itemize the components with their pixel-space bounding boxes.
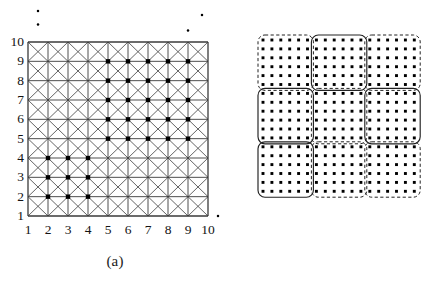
lattice-dot [270,163,273,166]
lattice-dot [377,110,380,113]
data-marker [146,136,150,140]
lattice-dot [386,119,389,122]
lattice-dot [279,110,282,113]
dot-lattice [262,39,416,193]
y-axis-tick-1: 1 [17,209,24,223]
lattice-dot [333,110,336,113]
x-axis-tick-5: 5 [98,223,118,237]
lattice-dot [288,119,291,122]
lattice-dot [262,163,265,166]
region-bottom-left [258,142,313,197]
lattice-dot [288,154,291,157]
lattice-dot [386,163,389,166]
lattice-dot [359,65,362,68]
outlier-marker [187,29,190,32]
lattice-dot [270,47,273,50]
lattice-dot [386,145,389,148]
lattice-dot [368,83,371,86]
lattice-dot [386,181,389,184]
y-axis-tick-5: 5 [17,132,24,146]
lattice-dot [270,65,273,68]
lattice-dot [297,39,300,42]
lattice-dot [368,65,371,68]
lattice-dot [413,181,416,184]
lattice-dot [377,181,380,184]
lattice-dot [351,56,354,59]
lattice-dot [324,190,327,193]
lattice-dot [359,39,362,42]
lattice-dot [351,154,354,157]
lattice-dot [306,92,309,95]
data-marker [186,59,190,63]
lattice-dot [413,163,416,166]
lattice-dot [315,110,318,113]
lattice-dot [288,181,291,184]
lattice-dot [297,56,300,59]
lattice-dot [395,101,398,104]
lattice-dot [306,128,309,131]
lattice-dot [262,65,265,68]
lattice-dot [351,39,354,42]
x-axis-tick-6: 6 [118,223,138,237]
lattice-dot [333,119,336,122]
lattice-dot [262,56,265,59]
lattice-dot [262,190,265,193]
lattice-dot [404,74,407,77]
lattice-dot [351,83,354,86]
y-axis-tick-7: 7 [17,93,24,107]
lattice-dot [324,47,327,50]
lattice-dot [395,181,398,184]
lattice-dot [324,128,327,131]
lattice-dot [297,65,300,68]
lattice-dot [262,145,265,148]
lattice-dot [306,136,309,139]
lattice-dot [351,119,354,122]
lattice-dot [368,163,371,166]
lattice-dot [315,83,318,86]
lattice-dot [297,172,300,175]
lattice-dot [377,74,380,77]
lattice-dot [315,190,318,193]
lattice-dot [306,181,309,184]
region-bottom-mid [311,142,366,197]
lattice-dot [377,145,380,148]
lattice-dot [342,92,345,95]
lattice-dot [315,163,318,166]
lattice-dot [413,101,416,104]
lattice-dot [333,56,336,59]
lattice-dot [342,65,345,68]
region-bottom-right [365,142,420,197]
data-markers [37,10,230,217]
lattice-dot [359,181,362,184]
lattice-dot [386,92,389,95]
lattice-dot [386,110,389,113]
lattice-dot [386,136,389,139]
x-axis-tick-8: 8 [158,223,178,237]
lattice-dot [324,92,327,95]
lattice-dot [395,65,398,68]
lattice-dot [315,92,318,95]
lattice-dot [342,56,345,59]
lattice-dot [377,163,380,166]
lattice-dot [404,145,407,148]
data-marker [166,59,170,63]
lattice-dot [368,56,371,59]
figure-container: (a) 1098765432112345678910 (b) [0,0,445,291]
x-axis-tick-4: 4 [78,223,98,237]
data-marker [106,78,110,82]
lattice-dot [324,119,327,122]
lattice-dot [315,65,318,68]
lattice-dot [413,190,416,193]
lattice-dot [315,145,318,148]
lattice-dot [404,110,407,113]
lattice-dot [386,74,389,77]
lattice-dot [279,65,282,68]
lattice-dot [395,145,398,148]
x-axis-tick-2: 2 [38,223,58,237]
lattice-dot [288,163,291,166]
lattice-dot [270,172,273,175]
lattice-dot [262,154,265,157]
lattice-dot [413,136,416,139]
lattice-dot [395,47,398,50]
lattice-dot [306,83,309,86]
